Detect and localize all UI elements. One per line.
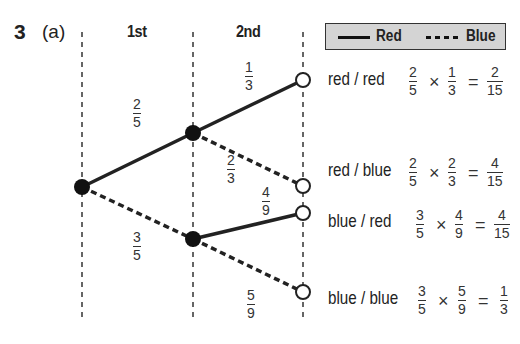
fraction-result: 415: [494, 208, 510, 241]
column-header-first: 1st: [127, 22, 147, 42]
fraction-result: 215: [487, 65, 503, 98]
prob-first-blue: 35: [133, 230, 141, 263]
legend-blue-label: Blue: [466, 27, 495, 45]
column-header-second: 2nd: [236, 22, 260, 42]
question-number: 3: [14, 20, 26, 44]
branch-blue-blue: [193, 239, 303, 292]
column-dividers: [82, 32, 303, 322]
times-sign: ×: [429, 163, 440, 184]
branch-red-blue: [193, 133, 303, 186]
fraction-a: 25: [409, 65, 417, 98]
fraction-b: 23: [448, 156, 456, 189]
outcome-label: blue / blue: [328, 287, 398, 309]
times-sign: ×: [438, 291, 449, 312]
fraction-b: 13: [448, 65, 456, 98]
node-blue: [185, 231, 201, 247]
outcome-label: red / red: [328, 68, 385, 90]
solid-line-icon: [338, 36, 370, 39]
equals-sign: =: [475, 215, 486, 236]
branch-blue-red: [193, 213, 303, 239]
prob-red-red: 13: [245, 60, 253, 93]
fraction-b: 59: [458, 284, 466, 317]
leaf-blue-blue: [296, 285, 310, 299]
prob-blue-blue: 59: [247, 288, 255, 321]
equals-sign: =: [468, 72, 479, 93]
leaf-blue-red: [296, 206, 310, 220]
fraction-a: 35: [416, 208, 424, 241]
equals-sign: =: [468, 163, 479, 184]
fraction-a: 35: [418, 284, 426, 317]
prob-first-red: 25: [133, 97, 141, 130]
legend-red-label: Red: [376, 27, 402, 45]
leaf-red-blue: [296, 179, 310, 193]
dashed-line-icon: [426, 36, 460, 39]
fraction-result: 13: [500, 284, 508, 317]
fraction-result: 415: [487, 156, 503, 189]
question-part: (a): [42, 21, 65, 43]
fraction-b: 49: [455, 208, 463, 241]
equals-sign: =: [478, 291, 489, 312]
node-red: [185, 125, 201, 141]
legend: Red Blue: [325, 23, 506, 50]
root-node: [74, 179, 90, 195]
times-sign: ×: [429, 72, 440, 93]
branch-first-red: [82, 133, 193, 187]
fraction-a: 25: [409, 156, 417, 189]
prob-blue-red: 49: [262, 185, 270, 218]
prob-red-blue: 23: [227, 153, 235, 186]
times-sign: ×: [436, 215, 447, 236]
outcome-label: blue / red: [328, 210, 391, 232]
outcome-label: red / blue: [328, 159, 391, 181]
leaf-red-red: [296, 73, 310, 87]
